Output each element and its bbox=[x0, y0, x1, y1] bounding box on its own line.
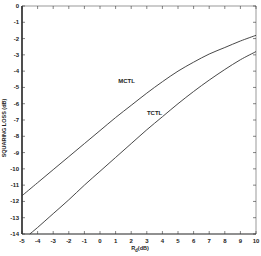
x-tick-label: 8 bbox=[223, 238, 227, 244]
y-tick-label: -13 bbox=[10, 215, 19, 221]
x-tick-label: 5 bbox=[176, 238, 180, 244]
x-tick-label: 1 bbox=[114, 238, 118, 244]
y-tick-label: -12 bbox=[10, 198, 19, 204]
x-tick-label: 6 bbox=[192, 238, 196, 244]
x-axis-title: Rd(dB) bbox=[131, 245, 149, 253]
y-tick-label: -6 bbox=[14, 101, 20, 107]
y-tick-label: -2 bbox=[14, 36, 20, 42]
squaring-loss-chart: -5-4-3-2-10123456789100-1-2-3-4-5-6-7-8-… bbox=[0, 0, 261, 256]
y-tick-label: -8 bbox=[14, 133, 20, 139]
x-tick-label: 3 bbox=[145, 238, 149, 244]
x-tick-label: -4 bbox=[35, 238, 41, 244]
series-label-mctl: MCTL bbox=[118, 78, 135, 84]
x-tick-label: -3 bbox=[51, 238, 57, 244]
y-tick-label: -5 bbox=[14, 84, 20, 90]
series-label-tctl: TCTL bbox=[147, 110, 163, 116]
x-tick-label: 7 bbox=[208, 238, 212, 244]
y-tick-label: -9 bbox=[14, 150, 20, 156]
x-axis-title-suffix: (dB) bbox=[138, 245, 149, 251]
x-tick-label: 9 bbox=[239, 238, 243, 244]
series-line-tctl bbox=[30, 52, 256, 234]
series-line-mctl bbox=[22, 35, 256, 195]
y-tick-label: -10 bbox=[10, 166, 19, 172]
x-tick-label: 2 bbox=[130, 238, 134, 244]
x-tick-label: 10 bbox=[253, 238, 260, 244]
y-tick-label: -1 bbox=[14, 19, 20, 25]
x-tick-label: 4 bbox=[161, 238, 165, 244]
y-tick-label: -7 bbox=[14, 117, 20, 123]
y-tick-label: 0 bbox=[16, 3, 20, 9]
x-tick-label: -5 bbox=[19, 238, 25, 244]
y-tick-label: -3 bbox=[14, 52, 20, 58]
y-tick-label: -11 bbox=[11, 182, 20, 188]
y-tick-label: -14 bbox=[10, 231, 19, 237]
x-tick-label: -1 bbox=[82, 238, 88, 244]
x-tick-label: 0 bbox=[98, 238, 102, 244]
x-tick-label: -2 bbox=[66, 238, 72, 244]
y-axis-title: SQUARING LOSS (dB) bbox=[1, 99, 7, 158]
y-tick-label: -4 bbox=[14, 68, 20, 74]
